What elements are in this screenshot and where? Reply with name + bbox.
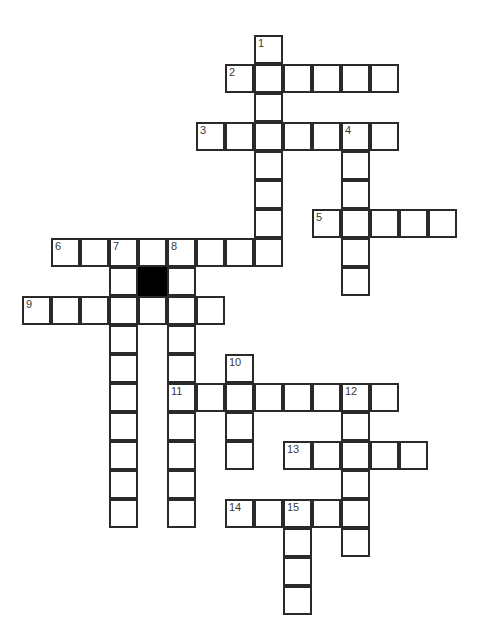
crossword-cell[interactable]: 5 xyxy=(312,209,341,238)
crossword-cell[interactable] xyxy=(341,441,370,470)
crossword-cell[interactable] xyxy=(225,122,254,151)
crossword-cell[interactable] xyxy=(80,296,109,325)
crossword-cell[interactable]: 3 xyxy=(196,122,225,151)
cell-number-14: 14 xyxy=(229,501,241,513)
cell-number-9: 9 xyxy=(26,298,32,310)
crossword-cell[interactable] xyxy=(225,441,254,470)
crossword-cell[interactable] xyxy=(167,325,196,354)
crossword-cell[interactable] xyxy=(167,354,196,383)
cell-number-5: 5 xyxy=(316,211,322,223)
crossword-cell[interactable] xyxy=(428,209,457,238)
crossword-cell[interactable] xyxy=(51,296,80,325)
cell-number-7: 7 xyxy=(113,240,119,252)
crossword-cell[interactable] xyxy=(399,209,428,238)
crossword-block-cell xyxy=(138,267,167,296)
crossword-cell[interactable]: 13 xyxy=(283,441,312,470)
crossword-cell[interactable]: 12 xyxy=(341,383,370,412)
crossword-cell[interactable] xyxy=(283,557,312,586)
crossword-cell[interactable] xyxy=(109,412,138,441)
crossword-cell[interactable] xyxy=(167,441,196,470)
crossword-cell[interactable] xyxy=(312,383,341,412)
crossword-cell[interactable] xyxy=(167,296,196,325)
crossword-cell[interactable] xyxy=(341,180,370,209)
crossword-cell[interactable] xyxy=(225,412,254,441)
crossword-cell[interactable] xyxy=(254,209,283,238)
cell-number-1: 1 xyxy=(258,37,264,49)
crossword-cell[interactable] xyxy=(341,209,370,238)
crossword-cell[interactable] xyxy=(283,64,312,93)
crossword-cell[interactable] xyxy=(225,238,254,267)
crossword-cell[interactable]: 7 xyxy=(109,238,138,267)
crossword-cell[interactable] xyxy=(254,93,283,122)
crossword-cell[interactable] xyxy=(167,470,196,499)
crossword-cell[interactable] xyxy=(196,238,225,267)
crossword-cell[interactable] xyxy=(109,383,138,412)
crossword-cell[interactable] xyxy=(254,151,283,180)
crossword-cell[interactable] xyxy=(254,122,283,151)
crossword-cell[interactable] xyxy=(109,441,138,470)
crossword-cell[interactable] xyxy=(341,528,370,557)
crossword-cell[interactable] xyxy=(341,151,370,180)
crossword-cell[interactable] xyxy=(167,412,196,441)
crossword-cell[interactable] xyxy=(312,499,341,528)
crossword-cell[interactable] xyxy=(283,586,312,615)
crossword-cell[interactable] xyxy=(254,383,283,412)
cell-number-10: 10 xyxy=(229,356,241,368)
crossword-cell[interactable] xyxy=(225,383,254,412)
crossword-cell[interactable]: 8 xyxy=(167,238,196,267)
crossword-cell[interactable] xyxy=(312,122,341,151)
crossword-cell[interactable] xyxy=(370,64,399,93)
cell-number-12: 12 xyxy=(345,385,357,397)
crossword-cell[interactable]: 6 xyxy=(51,238,80,267)
crossword-cell[interactable] xyxy=(312,441,341,470)
crossword-cell[interactable] xyxy=(254,64,283,93)
crossword-cell[interactable] xyxy=(370,441,399,470)
crossword-cell[interactable] xyxy=(167,499,196,528)
cell-number-4: 4 xyxy=(345,124,351,136)
crossword-cell[interactable] xyxy=(341,412,370,441)
crossword-cell[interactable] xyxy=(138,296,167,325)
crossword-cell[interactable]: 15 xyxy=(283,499,312,528)
crossword-cell[interactable] xyxy=(283,122,312,151)
crossword-cell[interactable] xyxy=(283,528,312,557)
cell-number-13: 13 xyxy=(287,443,299,455)
cell-number-8: 8 xyxy=(171,240,177,252)
crossword-cell[interactable] xyxy=(341,64,370,93)
crossword-cell[interactable] xyxy=(254,180,283,209)
crossword-cell[interactable]: 4 xyxy=(341,122,370,151)
crossword-cell[interactable]: 2 xyxy=(225,64,254,93)
crossword-cell[interactable]: 11 xyxy=(167,383,196,412)
crossword-cell[interactable] xyxy=(109,499,138,528)
crossword-cell[interactable]: 1 xyxy=(254,35,283,64)
cell-number-6: 6 xyxy=(55,240,61,252)
crossword-cell[interactable] xyxy=(254,499,283,528)
crossword-cell[interactable] xyxy=(109,470,138,499)
crossword-cell[interactable] xyxy=(109,325,138,354)
crossword-cell[interactable]: 9 xyxy=(22,296,51,325)
crossword-cell[interactable] xyxy=(370,383,399,412)
crossword-cell[interactable] xyxy=(341,470,370,499)
crossword-cell[interactable] xyxy=(370,122,399,151)
crossword-cell[interactable] xyxy=(254,238,283,267)
crossword-cell[interactable] xyxy=(109,354,138,383)
crossword-cell[interactable] xyxy=(341,499,370,528)
cell-number-11: 11 xyxy=(171,385,182,397)
crossword-cell[interactable] xyxy=(109,296,138,325)
crossword-cell[interactable] xyxy=(399,441,428,470)
crossword-cell[interactable] xyxy=(312,64,341,93)
crossword-cell[interactable] xyxy=(109,267,138,296)
cell-number-3: 3 xyxy=(200,124,206,136)
cell-number-15: 15 xyxy=(287,501,299,513)
crossword-cell[interactable] xyxy=(196,383,225,412)
crossword-cell[interactable] xyxy=(283,383,312,412)
crossword-cell[interactable]: 14 xyxy=(225,499,254,528)
crossword-cell[interactable] xyxy=(196,296,225,325)
crossword-cell[interactable]: 10 xyxy=(225,354,254,383)
crossword-cell[interactable] xyxy=(341,238,370,267)
crossword-cell[interactable] xyxy=(370,209,399,238)
crossword-cell[interactable] xyxy=(341,267,370,296)
crossword-cell[interactable] xyxy=(80,238,109,267)
crossword-cell[interactable] xyxy=(167,267,196,296)
cell-number-2: 2 xyxy=(229,66,235,78)
crossword-cell[interactable] xyxy=(138,238,167,267)
